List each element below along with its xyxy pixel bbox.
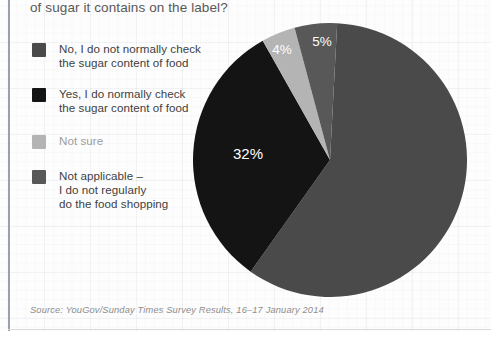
- legend-label-line2: I do not regularly: [59, 183, 146, 196]
- legend-label-yes-check: Yes, I do normally check the sugar conte…: [59, 87, 189, 114]
- legend-item-no-check: No, I do not normally check the sugar co…: [32, 42, 202, 69]
- legend-label-not-sure: Not sure: [59, 134, 103, 148]
- legend-swatch-no-check: [32, 43, 46, 57]
- chart-legend: No, I do not normally check the sugar co…: [32, 42, 202, 228]
- legend-swatch-yes-check: [32, 88, 46, 102]
- legend-item-not-applicable: Not applicable – I do not regularly do t…: [32, 169, 202, 210]
- legend-label-no-check: No, I do not normally check the sugar co…: [59, 42, 201, 69]
- source-note: Source: YouGov/Sunday Times Survey Resul…: [30, 305, 324, 315]
- pie-slice-label: 5%: [312, 34, 332, 49]
- left-border-rule: [8, 0, 10, 331]
- legend-swatch-not-applicable: [32, 170, 46, 184]
- legend-label-line3: do the food shopping: [59, 197, 168, 210]
- legend-label-line2: the sugar content of food: [59, 101, 189, 114]
- chart-figure: of sugar it contains on the label? No, I…: [0, 0, 491, 347]
- pie-slice-label: 32%: [233, 145, 263, 162]
- legend-label-not-applicable: Not applicable – I do not regularly do t…: [59, 169, 168, 210]
- legend-label-line1: No, I do not normally check: [59, 42, 201, 55]
- legend-item-not-sure: Not sure: [32, 134, 202, 149]
- pie-slice-label: 4%: [272, 42, 292, 57]
- chart-title: of sugar it contains on the label?: [30, 0, 228, 16]
- legend-label-line1: Not applicable –: [59, 169, 143, 182]
- legend-item-yes-check: Yes, I do normally check the sugar conte…: [32, 87, 202, 114]
- legend-swatch-not-sure: [32, 135, 46, 149]
- pie-chart: 59%32%4%5%: [193, 23, 467, 297]
- pie-chart-svg: 59%32%4%5%: [193, 23, 467, 297]
- bottom-border-rule: [8, 329, 491, 330]
- legend-label-line2: the sugar content of food: [59, 56, 189, 69]
- legend-label-line1: Yes, I do normally check: [59, 87, 185, 100]
